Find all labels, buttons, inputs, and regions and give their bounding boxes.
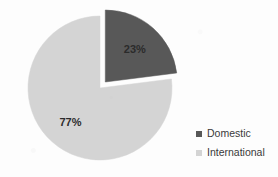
pie-chart: 23% 77% Domestic International xyxy=(0,0,278,177)
legend-item-international[interactable]: International xyxy=(196,143,278,162)
slice-label-international: 77% xyxy=(59,116,81,128)
chart-legend: Domestic International xyxy=(196,124,278,162)
legend-label-domestic: Domestic xyxy=(207,128,251,139)
slice-label-domestic: 23% xyxy=(124,43,146,55)
legend-item-domestic[interactable]: Domestic xyxy=(196,124,278,143)
legend-swatch-domestic xyxy=(196,131,202,137)
legend-label-international: International xyxy=(207,147,265,158)
legend-swatch-international xyxy=(196,150,202,156)
